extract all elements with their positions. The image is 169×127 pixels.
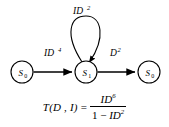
formula-denominator-minus: − [100,109,106,121]
formula-numerator: ID6 [99,92,118,105]
formula-numerator-base: ID [101,93,113,105]
edge-label-left-to-middle: ID [43,48,54,58]
node-s1-middle-label: S [83,68,88,78]
formula-denominator-exponent: 2 [121,108,124,115]
node-s0-left-subscript: 0 [24,73,27,79]
edge-label-middle-to-right: D [109,48,117,58]
edge-label-self-loop: ID [72,6,83,16]
formula-denominator: 1 − ID2 [90,108,126,121]
node-s0-right-label: S [146,68,151,78]
edge-exponent-left-to-middle: 4 [58,46,62,53]
fraction-bar [90,106,126,107]
formula-denominator-one: 1 [92,109,98,121]
formula-numerator-exponent: 6 [112,92,115,99]
state-diagram-figure: S 0 S 1 S 0 ID 4 ID 2 D 2 T(D , I) = ID6… [0,0,169,127]
formula-lhs: T(D , I) [43,101,78,113]
formula-equals-sign: = [78,101,90,113]
transfer-function-formula: T(D , I) = ID6 1 − ID2 [0,92,169,121]
edge-exponent-middle-to-right: 2 [118,46,122,53]
node-s1-middle-subscript: 1 [88,73,91,79]
formula-fraction: ID6 1 − ID2 [90,92,126,121]
formula-denominator-base: ID [109,109,121,121]
state-diagram-graphic: S 0 S 1 S 0 ID 4 ID 2 D 2 [0,0,169,92]
edge-exponent-self-loop: 2 [87,4,91,11]
node-s0-left-label: S [19,68,24,78]
node-s0-right-subscript: 0 [151,73,154,79]
self-loop-edge [71,16,100,62]
